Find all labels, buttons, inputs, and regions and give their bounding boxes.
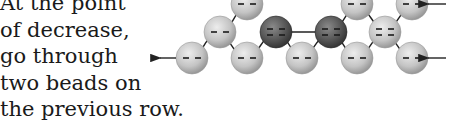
bead-bottom <box>176 42 208 74</box>
bead-bottom <box>231 42 263 74</box>
bead-top <box>396 0 428 20</box>
bead-bottom <box>396 42 428 74</box>
bead-middle <box>204 16 236 48</box>
dark-bead-middle <box>315 16 347 48</box>
bead-top <box>231 0 263 20</box>
bead-diagram <box>0 0 449 130</box>
bead-bottom <box>286 42 318 74</box>
bead-bottom <box>341 42 373 74</box>
dark-bead-middle <box>260 16 292 48</box>
bead-middle <box>369 16 401 48</box>
